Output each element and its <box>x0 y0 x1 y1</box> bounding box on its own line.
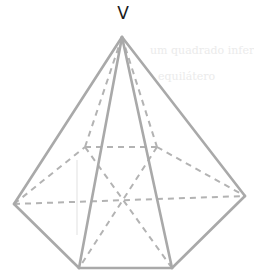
hidden-lateral-edge-right <box>122 37 157 147</box>
hidden-base-edge-back-right <box>157 147 245 196</box>
pyramid-drawing <box>0 0 254 270</box>
base-edge-front-right <box>172 196 245 268</box>
apex-label: V <box>115 3 131 23</box>
base-diagonal-horizontal <box>14 196 245 204</box>
base-edge-front-left <box>14 204 79 268</box>
lateral-edge-front-right <box>122 37 172 268</box>
visible-edges <box>14 37 245 268</box>
hidden-base-edge-back-left <box>14 147 85 204</box>
hexagonal-pyramid-figure: um quadrado inferior equilátero <box>0 0 254 270</box>
